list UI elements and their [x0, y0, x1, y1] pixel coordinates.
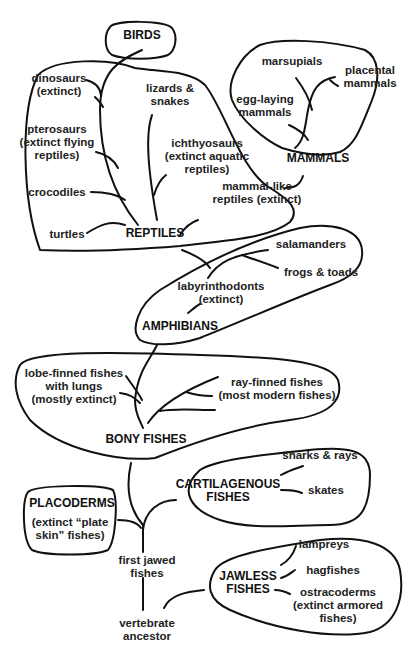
group-amphibians: AMPHIBIANS — [142, 320, 218, 333]
label-frogs: frogs & toads — [284, 266, 358, 279]
vertebrate-evolution-diagram: BIRDS dinosaurs(extinct) lizards &snakes… — [0, 0, 416, 654]
label-salamanders: salamanders — [276, 238, 346, 251]
label-labyrinthodonts: labyrinthodonts(extinct) — [178, 280, 265, 306]
group-mammals: MAMMALS — [287, 152, 350, 165]
label-mammal-like: mammal-likereptiles (extinct) — [213, 180, 302, 206]
group-bony-fishes: BONY FISHES — [105, 433, 186, 446]
group-placoderms: PLACODERMS — [29, 497, 114, 510]
label-vertebrate-ancestor: vertebrateancestor — [119, 617, 175, 643]
label-sharks: sharks & rays — [282, 449, 357, 462]
label-ostracoderms: ostracoderms(extinct armoredfishes) — [293, 586, 383, 625]
group-reptiles: REPTILES — [126, 227, 185, 240]
label-lampreys: lampreys — [299, 538, 350, 551]
label-hagfishes: hagfishes — [306, 564, 360, 577]
label-turtles: turtles — [49, 228, 84, 241]
label-first-jawed: first jawedfishes — [119, 554, 176, 580]
group-birds: BIRDS — [123, 29, 160, 42]
label-placental: placentalmammals — [343, 64, 396, 90]
label-dinosaurs: dinosaurs(extinct) — [32, 72, 87, 98]
label-marsupials: marsupials — [262, 55, 323, 68]
label-lizards: lizards &snakes — [146, 82, 194, 108]
label-skates: skates — [308, 484, 344, 497]
label-lobe-finned: lobe-finned fisheswith lungs(mostly exti… — [25, 367, 123, 406]
label-ichthyosaurs: ichthyosaurs(extinct aquaticreptiles) — [165, 137, 249, 176]
label-pterosaurs: pterosaurs(extinct flyingreptiles) — [20, 123, 95, 162]
group-jawless: JAWLESSFISHES — [219, 570, 276, 596]
label-placoderms-desc: (extinct “plateskin” fishes) — [32, 516, 109, 542]
label-egg-laying: egg-layingmammals — [236, 93, 294, 119]
label-ray-finned: ray-finned fishes(most modern fishes) — [219, 376, 336, 402]
label-crocodiles: crocodiles — [28, 186, 86, 199]
group-cartilagenous: CARTILAGENOUSFISHES — [176, 478, 281, 504]
